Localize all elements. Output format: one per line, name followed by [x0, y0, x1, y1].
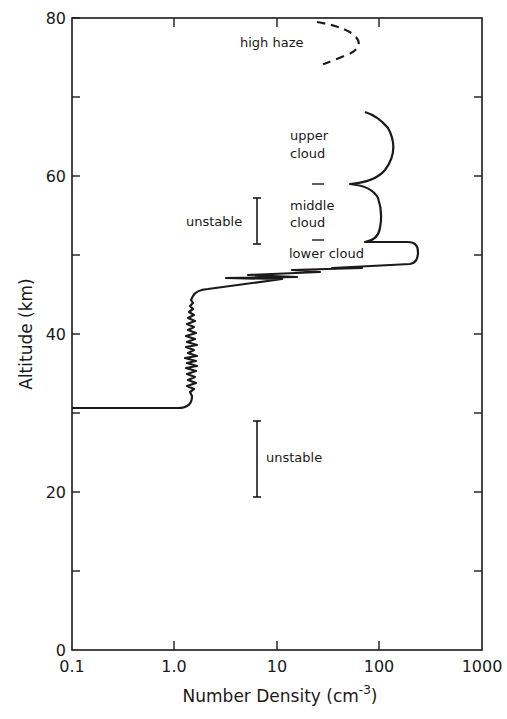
label-lower-cloud: lower cloud — [289, 246, 364, 261]
x-tick-1.0: 1.0 — [161, 657, 186, 676]
x-tick-10: 10 — [267, 657, 287, 676]
unstable-bar-upper — [253, 198, 261, 244]
x-tick-1000: 1000 — [462, 657, 503, 676]
y-ticks-right — [474, 97, 482, 571]
label-unstable-upper: unstable — [186, 214, 242, 229]
x-axis-title: Number Density (cm-3) — [183, 683, 378, 706]
y-tick-20: 20 — [46, 483, 66, 502]
y-tick-40: 40 — [46, 325, 66, 344]
label-upper-cloud-1: upper — [290, 128, 329, 143]
x-tick-0.1: 0.1 — [59, 657, 84, 676]
label-upper-cloud-2: cloud — [290, 146, 325, 161]
chart-canvas: 0 20 40 60 80 0.1 1.0 10 100 1000 Number… — [0, 0, 507, 719]
x-ticks-bottom — [174, 641, 379, 650]
high-haze-line — [317, 22, 359, 66]
plot-frame — [72, 18, 482, 650]
x-tick-100: 100 — [364, 657, 395, 676]
profile-line — [72, 112, 418, 408]
label-high-haze: high haze — [240, 35, 304, 50]
y-axis-title: Altitude (km) — [16, 278, 36, 390]
y-tick-80: 80 — [46, 9, 66, 28]
label-unstable-lower: unstable — [266, 450, 322, 465]
y-tick-60: 60 — [46, 167, 66, 186]
unstable-bar-lower — [253, 421, 261, 497]
label-middle-cloud-2: cloud — [290, 215, 325, 230]
label-middle-cloud-1: middle — [290, 198, 334, 213]
x-ticks-top — [174, 18, 379, 27]
y-ticks-left — [72, 18, 80, 571]
